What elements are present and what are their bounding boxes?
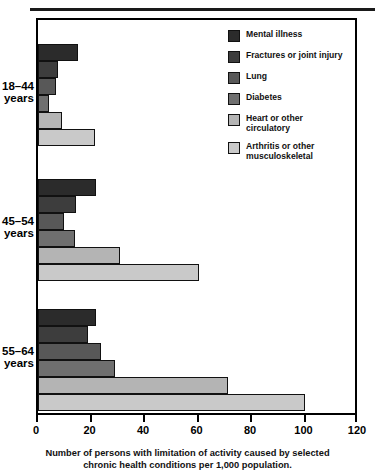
legend-item: Mental illness: [228, 30, 368, 42]
axis-tick: [90, 415, 92, 422]
legend-swatch-icon: [228, 93, 240, 105]
bar: [38, 360, 115, 377]
axis-tick: [143, 415, 145, 422]
legend-item: Fractures or joint injury: [228, 51, 368, 63]
y-axis-group-label: 45–54years: [2, 216, 34, 239]
legend-swatch-icon: [228, 114, 240, 126]
page-title: [30, 0, 375, 2]
axis-tick-label: 100: [294, 424, 312, 436]
legend-item-label: Diabetes: [246, 93, 282, 103]
axis-tick: [197, 415, 199, 422]
y-axis-group-label: 55–64years: [2, 346, 34, 369]
legend-item-label: Fractures or joint injury: [246, 51, 342, 61]
bar: [38, 179, 96, 196]
bar: [38, 213, 64, 230]
axis-tick-label: 20: [83, 424, 95, 436]
axis-tick-label: 60: [190, 424, 202, 436]
chart-legend: Mental illnessFractures or joint injuryL…: [228, 30, 368, 170]
axis-tick: [36, 415, 38, 422]
chart-caption: Number of persons with limitation of act…: [18, 448, 357, 471]
bar: [38, 394, 305, 411]
legend-item: Lung: [228, 72, 368, 84]
bar: [38, 95, 49, 112]
legend-item-label: Arthritis or other musculoskeletal: [246, 142, 314, 161]
axis-tick: [355, 415, 357, 422]
legend-item-label: Mental illness: [246, 30, 302, 40]
legend-swatch-icon: [228, 51, 240, 63]
bar: [38, 326, 88, 343]
bar: [38, 78, 56, 95]
bar: [38, 112, 62, 129]
axis-tick: [250, 415, 252, 422]
bar: [38, 343, 101, 360]
bar: [38, 230, 75, 247]
legend-item: Arthritis or other musculoskeletal: [228, 142, 368, 161]
axis-tick: [304, 415, 306, 422]
caption-line-1: Number of persons with limitation of act…: [18, 448, 357, 460]
caption-line-2: chronic health conditions per 1,000 popu…: [18, 460, 357, 472]
bar: [38, 247, 120, 264]
axis-tick-label: 80: [244, 424, 256, 436]
axis-tick-label: 120: [348, 424, 366, 436]
bar: [38, 377, 228, 394]
legend-item-label: Heart or other circulatory: [246, 114, 303, 133]
bar: [38, 129, 95, 146]
legend-item: Heart or other circulatory: [228, 114, 368, 133]
bar: [38, 61, 58, 78]
legend-swatch-icon: [228, 30, 240, 42]
x-axis: 020406080100120: [36, 415, 357, 416]
bar: [38, 44, 78, 61]
axis-tick-label: 40: [137, 424, 149, 436]
legend-swatch-icon: [228, 142, 240, 154]
axis-tick-label: 0: [33, 424, 39, 436]
y-axis-group-label: 18–44years: [2, 81, 34, 104]
bar: [38, 264, 199, 281]
legend-item-label: Lung: [246, 72, 267, 82]
bar: [38, 309, 96, 326]
legend-swatch-icon: [228, 72, 240, 84]
legend-item: Diabetes: [228, 93, 368, 105]
title-rule: [30, 8, 375, 11]
bar: [38, 196, 76, 213]
